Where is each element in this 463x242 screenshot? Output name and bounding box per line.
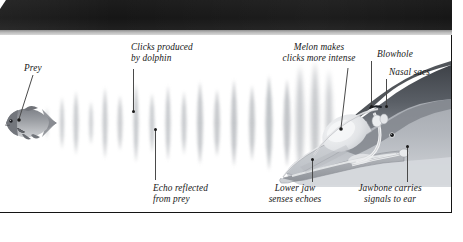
dolphin-eye [390, 133, 394, 137]
label-nasal-sacs-line1: Nasal sacs [389, 67, 430, 78]
leader-dot-nasal-sacs [385, 105, 388, 108]
leader-lower-jaw [312, 160, 313, 182]
label-melon: Melon makes clicks more intense [264, 42, 374, 65]
label-jawbone: Jawbone carries signals to ear [338, 183, 442, 206]
leader-echo-reflected [155, 130, 156, 180]
leader-prey [14, 73, 40, 125]
leader-dot-echo-reflected [154, 128, 157, 131]
dolphin-head [280, 61, 452, 187]
label-jawbone-line2: signals to ear [338, 194, 442, 205]
leader-dot-clicks-produced [132, 110, 135, 113]
label-lower-jaw: Lower jaw senses echoes [258, 183, 332, 206]
leader-jawbone [407, 147, 408, 182]
leader-dot-jawbone [406, 145, 409, 148]
label-echo-reflected: Echo reflected from prey [153, 183, 208, 206]
label-blowhole-line1: Blowhole [377, 49, 413, 60]
leader-dot-lower-jaw [311, 158, 314, 161]
leader-melon [336, 66, 352, 134]
label-nasal-sacs: Nasal sacs [389, 67, 430, 78]
sound-wave-field [60, 75, 291, 171]
label-jawbone-line1: Jawbone carries [338, 183, 442, 194]
label-echo-reflected-line1: Echo reflected [153, 183, 208, 194]
label-melon-line2: clicks more intense [264, 53, 374, 64]
leader-clicks-produced [133, 69, 134, 111]
echolocation-figure: Prey Clicks produced by dolphin Echo ref… [0, 0, 463, 242]
label-lower-jaw-line1: Lower jaw [258, 183, 332, 194]
label-clicks-produced-line1: Clicks produced [131, 42, 193, 53]
label-clicks-produced-line2: by dolphin [131, 53, 193, 64]
leader-blowhole [371, 61, 372, 107]
label-blowhole: Blowhole [377, 49, 413, 60]
header-banner [0, 0, 452, 30]
leader-nasal-sacs [386, 79, 387, 107]
label-melon-line1: Melon makes [264, 42, 374, 53]
leader-dot-blowhole [370, 105, 373, 108]
illustration-panel: Prey Clicks produced by dolphin Echo ref… [0, 35, 452, 213]
label-echo-reflected-line2: from prey [153, 194, 208, 205]
label-lower-jaw-line2: senses echoes [258, 194, 332, 205]
label-clicks-produced: Clicks produced by dolphin [131, 42, 193, 65]
